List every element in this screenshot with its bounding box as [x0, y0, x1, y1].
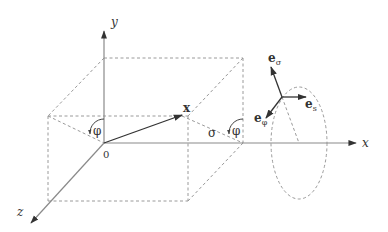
- diagram-canvas: y x z 0 x φ φ σ eσ es eφ: [0, 0, 388, 232]
- z-axis: [31, 143, 104, 223]
- e-s-label: es: [305, 97, 317, 113]
- z-axis-label: z: [16, 205, 24, 219]
- sigma-label: σ: [208, 126, 216, 140]
- axes: [31, 31, 356, 223]
- y-axis-label: y: [110, 15, 118, 29]
- x-axis-label: x: [362, 136, 369, 150]
- e-phi-label: eφ: [254, 111, 268, 127]
- phi-origin-label: φ: [93, 124, 101, 138]
- radius-line: [282, 97, 299, 143]
- position-vector: [104, 115, 182, 143]
- e-sigma-vector: [271, 67, 282, 97]
- coordinate-diagram: y x z 0 x φ φ σ eσ es eφ: [0, 0, 388, 232]
- e-phi-vector: [266, 97, 282, 118]
- phi-corner-label: φ: [232, 124, 240, 138]
- e-sigma-label: eσ: [268, 51, 282, 67]
- origin-label: 0: [103, 149, 109, 160]
- basis-vectors: [266, 67, 306, 118]
- position-vector-label: x: [183, 101, 191, 115]
